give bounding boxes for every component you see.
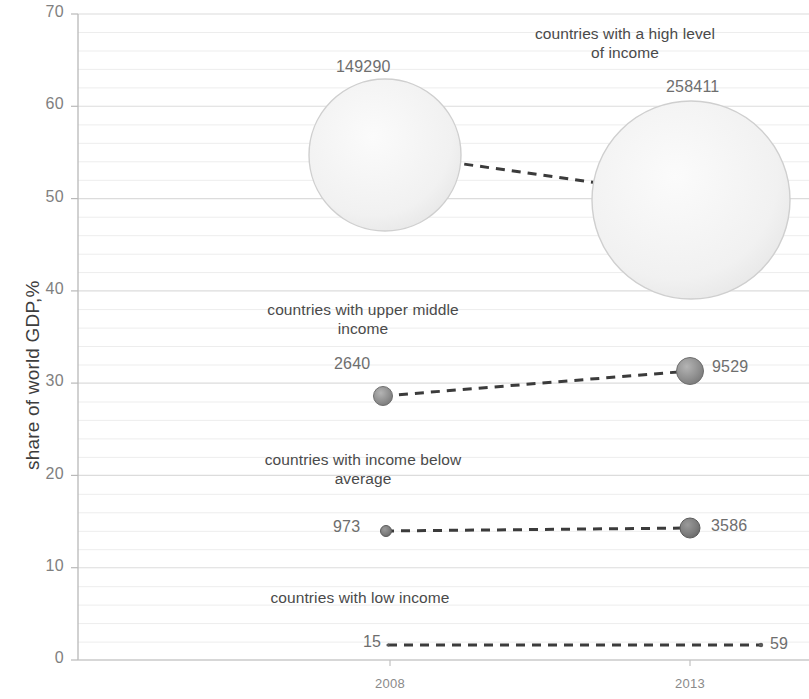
x-axis-line: [78, 660, 809, 666]
x-tick-2008: 2008: [345, 676, 435, 691]
y-tick-20: 20: [18, 465, 64, 483]
value-low-income-2008: 15: [363, 633, 381, 651]
y-tick-0: 0: [18, 649, 64, 667]
bubble-upper-middle-2013: [677, 358, 704, 385]
value-below-average-2008: 973: [333, 518, 360, 536]
y-tick-10: 10: [18, 557, 64, 575]
x-tick-2013: 2013: [645, 676, 735, 691]
value-below-average-2013: 3586: [711, 517, 747, 535]
y-tick-30: 30: [18, 372, 64, 390]
bubble-chart: share of world GDP,% 70 60 50 40 30 20 1…: [0, 0, 809, 699]
bubble-below-average-2013: [680, 518, 700, 538]
series-label-below-average: countries with income below average: [198, 450, 528, 489]
y-tick-70: 70: [18, 3, 64, 21]
series-label-upper-middle: countries with upper middle income: [203, 300, 523, 339]
bubble-high-income-2013: [592, 101, 790, 299]
bubble-upper-middle-2008: [374, 387, 393, 406]
value-high-income-2008: 149290: [336, 58, 391, 76]
value-upper-middle-2013: 9529: [712, 358, 748, 376]
y-tick-60: 60: [18, 95, 64, 113]
y-axis-line: [71, 14, 78, 660]
y-tick-50: 50: [18, 188, 64, 206]
bubble-below-average-2008: [381, 526, 392, 537]
bubble-low-income-2008: [386, 643, 389, 646]
value-high-income-2013: 258411: [666, 78, 719, 96]
series-label-low-income: countries with low income: [200, 588, 520, 607]
value-low-income-2013: 59: [770, 635, 788, 653]
connector-below-average: [385, 528, 690, 531]
bubble-low-income-2013: [759, 643, 763, 647]
value-upper-middle-2008: 2640: [334, 355, 370, 373]
bubble-high-income-2008: [309, 79, 461, 231]
y-tick-40: 40: [18, 280, 64, 298]
series-label-high-income: countries with a high level of income: [470, 24, 780, 63]
